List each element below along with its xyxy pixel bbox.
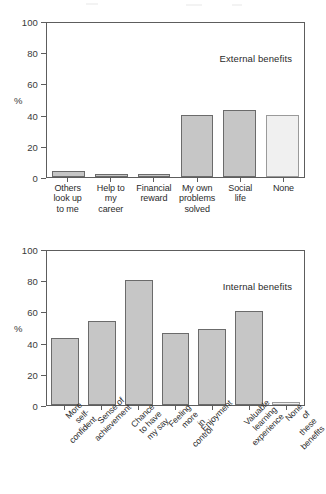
bar-series-external [47, 23, 304, 177]
y-axis-title-internal: % [14, 323, 22, 334]
y-tick-label: 40 [0, 338, 38, 349]
bar-slot [157, 251, 194, 405]
bar-slot [231, 251, 268, 405]
y-tick-label: 60 [0, 307, 38, 318]
bar-slot [90, 23, 133, 177]
bar-slot [218, 23, 261, 177]
y-tick-label: 80 [0, 276, 38, 287]
x-tick-mark [283, 178, 284, 182]
chart-external-benefits: % 100 80 60 40 20 0 External benefits [0, 0, 322, 222]
x-label-slot: Feeling more in control [157, 410, 194, 494]
x-label-slot: None of these benefits [268, 410, 305, 494]
x-label-slot: Sense of achievement [83, 410, 120, 494]
x-tick-marks-external [46, 178, 305, 182]
bar-slot [261, 23, 304, 177]
bar-my-own-problems-solved[interactable] [181, 115, 214, 177]
x-label-slot: Chance to have my say [120, 410, 157, 494]
bar-slot [133, 23, 176, 177]
bar-valuable-learning-experience[interactable] [235, 311, 263, 405]
x-label-slot: Enjoyment [194, 410, 231, 494]
y-tick-label: 100 [0, 245, 38, 256]
y-axis-title-external: % [14, 95, 22, 106]
x-label-slot: More self-confident [46, 410, 83, 494]
x-label-none-of-these-benefits: None of these benefits [276, 402, 326, 452]
y-tick-label: 20 [0, 369, 38, 380]
y-tick-label: 0 [0, 401, 38, 412]
bar-slot [84, 251, 121, 405]
y-tick-label: 80 [0, 48, 38, 59]
x-label-my-own-problems-solved: My own problems solved [176, 183, 219, 214]
plot-area-external: External benefits [46, 22, 305, 178]
y-tick-label: 40 [0, 110, 38, 121]
x-label-social-life: Social life [219, 183, 262, 214]
bar-series-internal [47, 251, 304, 405]
bar-help-to-my-career[interactable] [95, 174, 128, 177]
bar-enjoyment[interactable] [198, 329, 226, 405]
x-label-others-look-up-to-me: Others look up to me [46, 183, 89, 214]
x-label-help-to-my-career: Help to my career [89, 183, 132, 214]
bar-slot [267, 251, 304, 405]
x-label-none: None [262, 183, 305, 214]
x-tick-mark [153, 178, 154, 182]
x-tick-mark [197, 178, 198, 182]
bar-slot [120, 251, 157, 405]
x-axis-labels-external: Others look up to me Help to my career F… [46, 183, 305, 214]
x-label-financial-reward: Financial reward [132, 183, 175, 214]
y-tick-label: 60 [0, 79, 38, 90]
x-tick-mark [110, 178, 111, 182]
bar-others-look-up-to-me[interactable] [52, 171, 85, 177]
plot-area-internal: Internal benefits [46, 250, 305, 406]
x-tick-mark [240, 178, 241, 182]
y-tick-label: 20 [0, 141, 38, 152]
x-axis-labels-internal: More self-confident Sense of achievement… [46, 410, 305, 494]
bar-none[interactable] [266, 115, 299, 177]
x-tick-mark [67, 178, 68, 182]
y-tick-label: 100 [0, 17, 38, 28]
bar-slot [175, 23, 218, 177]
bar-financial-reward[interactable] [138, 174, 171, 177]
bar-more-self-confident[interactable] [51, 338, 79, 405]
y-tick-label: 0 [0, 173, 38, 184]
bar-slot [47, 251, 84, 405]
bar-social-life[interactable] [223, 110, 256, 177]
bar-slot [194, 251, 231, 405]
bar-sense-of-achievement[interactable] [88, 321, 116, 405]
bar-slot [47, 23, 90, 177]
x-label-slot: Valuable learning experience [231, 410, 268, 494]
chart-internal-benefits: % 100 80 60 40 20 0 Internal benefits [0, 228, 322, 494]
bar-feeling-more-in-control[interactable] [162, 333, 190, 405]
bar-chance-to-have-my-say[interactable] [125, 280, 153, 405]
